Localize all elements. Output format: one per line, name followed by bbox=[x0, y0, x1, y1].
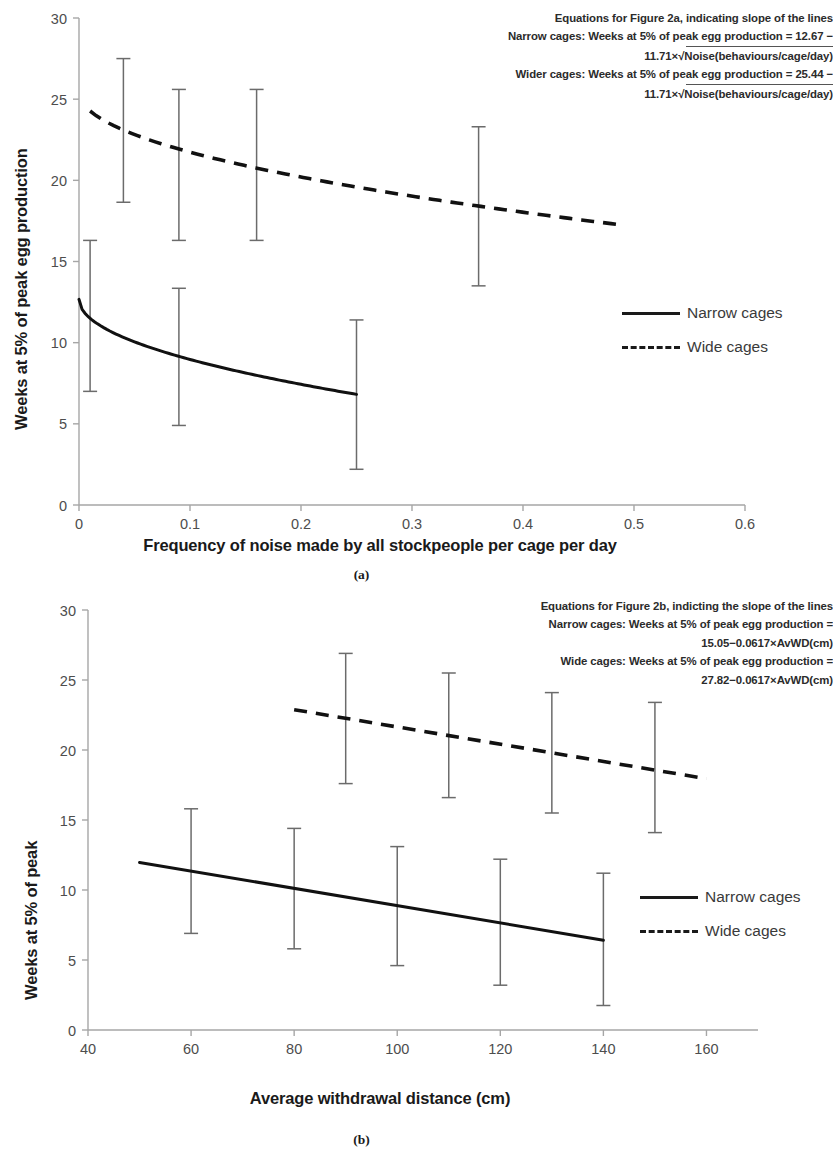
x-tick-label: 0.3 bbox=[402, 516, 422, 532]
panel-caption-a: (a) bbox=[0, 567, 778, 583]
x-axis-label-a: Frequency of noise made by all stockpeop… bbox=[0, 536, 760, 555]
legend-item-narrow-b: Narrow cages bbox=[640, 880, 801, 914]
x-tick-label: 0.2 bbox=[291, 516, 311, 532]
sqrt-group: √Noise(behaviours/cage/day) bbox=[678, 84, 833, 103]
error-bar bbox=[250, 89, 264, 240]
legend-item-narrow-a: Narrow cages bbox=[622, 296, 783, 330]
x-tick-label: 40 bbox=[80, 1041, 96, 1057]
solid-line-swatch-icon bbox=[640, 890, 698, 904]
sqrt-bar bbox=[686, 46, 833, 47]
x-tick-label: 80 bbox=[286, 1041, 302, 1057]
error-bar bbox=[83, 240, 97, 391]
figure-2a-panel: 05101520253000.10.20.30.40.50.6 Weeks at… bbox=[0, 0, 833, 600]
solid-line-swatch-icon bbox=[622, 306, 680, 320]
equation-wider-a-line2: 11.71×√Noise(behaviours/cage/day) bbox=[391, 84, 833, 103]
eq-radicand: Noise(behaviours/cage/day) bbox=[684, 88, 833, 100]
y-tick-label: 25 bbox=[60, 673, 76, 689]
x-tick-label: 0.6 bbox=[735, 516, 755, 532]
dashed-line-swatch-icon bbox=[622, 340, 680, 354]
series-line-narrow-cages bbox=[79, 299, 357, 394]
panel-caption-b: (b) bbox=[0, 1132, 778, 1148]
series-line-wide-cages bbox=[90, 111, 623, 225]
equation-narrow-a-line1: Narrow cages: Weeks at 5% of peak egg pr… bbox=[391, 27, 833, 45]
y-tick-label: 10 bbox=[60, 883, 76, 899]
x-tick-label: 0.5 bbox=[624, 516, 644, 532]
dashed-line-swatch-icon bbox=[640, 924, 698, 938]
y-tick-label: 0 bbox=[59, 498, 67, 514]
equation-wider-a-line1: Wider cages: Weeks at 5% of peak egg pro… bbox=[391, 65, 833, 83]
sqrt-bar bbox=[686, 84, 833, 85]
legend-label-wide-a: Wide cages bbox=[687, 338, 768, 356]
y-tick-label: 5 bbox=[59, 416, 67, 432]
y-tick-label: 30 bbox=[51, 11, 67, 27]
equation-narrow-b-line2: 15.05−0.0617×AvWD(cm) bbox=[391, 634, 833, 652]
x-tick-label: 0.1 bbox=[180, 516, 200, 532]
y-tick-label: 10 bbox=[51, 335, 67, 351]
y-tick-label: 30 bbox=[60, 603, 76, 619]
series-line-narrow-cages bbox=[140, 862, 604, 940]
error-bar bbox=[116, 59, 130, 203]
y-tick-label: 15 bbox=[60, 813, 76, 829]
y-tick-label: 5 bbox=[68, 953, 76, 969]
legend-label-narrow-a: Narrow cages bbox=[687, 304, 783, 322]
x-tick-label: 100 bbox=[385, 1041, 409, 1057]
eq-coef: 11.71× bbox=[644, 88, 678, 100]
equation-heading-a: Equations for Figure 2a, indicating slop… bbox=[391, 9, 833, 27]
legend-b: Narrow cages Wide cages bbox=[640, 880, 801, 948]
y-tick-label: 20 bbox=[60, 743, 76, 759]
x-tick-label: 140 bbox=[591, 1041, 615, 1057]
x-tick-label: 60 bbox=[183, 1041, 199, 1057]
y-axis-label-b: Weeks at 5% of peak bbox=[22, 841, 41, 1000]
y-tick-label: 0 bbox=[68, 1023, 76, 1039]
error-bar bbox=[172, 89, 186, 240]
x-tick-label: 0 bbox=[75, 516, 83, 532]
equation-heading-b: Equations for Figure 2b, indicting the s… bbox=[391, 597, 833, 615]
eq-coef: 11.71× bbox=[644, 50, 678, 62]
x-tick-label: 160 bbox=[694, 1041, 718, 1057]
series-line-wide-cages bbox=[294, 710, 706, 779]
equation-narrow-a-line2: 11.71×√Noise(behaviours/cage/day) bbox=[391, 46, 833, 65]
y-tick-label: 25 bbox=[51, 92, 67, 108]
equation-narrow-b-line1: Narrow cages: Weeks at 5% of peak egg pr… bbox=[391, 615, 833, 633]
x-axis-label-b: Average withdrawal distance (cm) bbox=[0, 1089, 760, 1108]
equation-annotation-b: Equations for Figure 2b, indicting the s… bbox=[391, 597, 833, 689]
y-tick-label: 20 bbox=[51, 173, 67, 189]
y-axis-label-a: Weeks at 5% of peak egg production bbox=[12, 148, 31, 430]
legend-label-wide-b: Wide cages bbox=[705, 922, 786, 940]
equation-wide-b-line1: Wide cages: Weeks at 5% of peak egg prod… bbox=[391, 652, 833, 670]
equation-wide-b-line2: 27.82−0.0617×AvWD(cm) bbox=[391, 671, 833, 689]
x-tick-label: 120 bbox=[488, 1041, 512, 1057]
y-tick-label: 15 bbox=[51, 254, 67, 270]
x-tick-label: 0.4 bbox=[513, 516, 533, 532]
sqrt-group: √Noise(behaviours/cage/day) bbox=[678, 46, 833, 65]
legend-label-narrow-b: Narrow cages bbox=[705, 888, 801, 906]
legend-item-wide-b: Wide cages bbox=[640, 914, 801, 948]
eq-radicand: Noise(behaviours/cage/day) bbox=[684, 50, 833, 62]
equation-annotation-a: Equations for Figure 2a, indicating slop… bbox=[391, 9, 833, 103]
legend-a: Narrow cages Wide cages bbox=[622, 296, 783, 364]
legend-item-wide-a: Wide cages bbox=[622, 330, 783, 364]
